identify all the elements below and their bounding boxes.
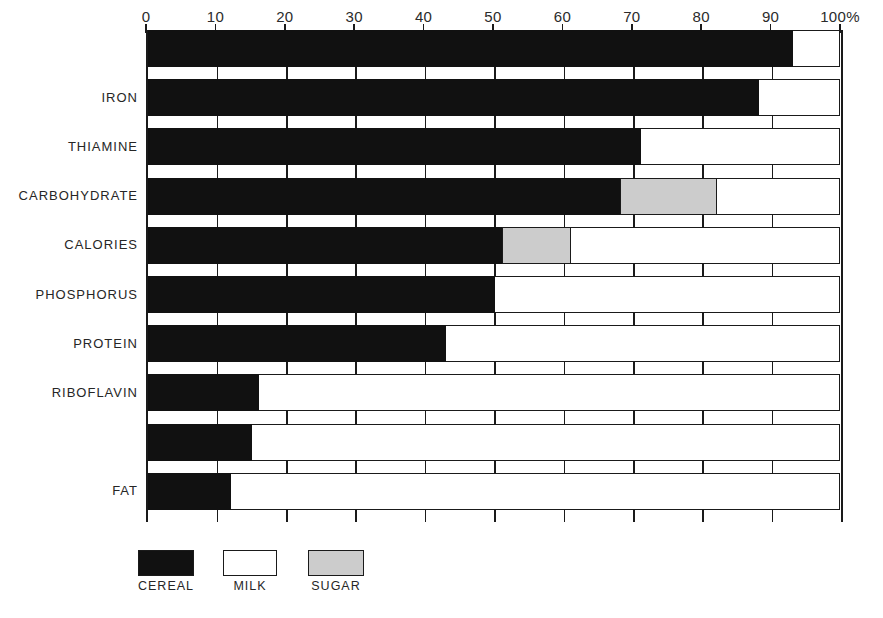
bar-segment-cereal bbox=[148, 325, 446, 362]
x-axis-tick-label: 0 bbox=[142, 8, 151, 25]
x-axis-tick-label: 40 bbox=[415, 8, 432, 25]
chart-legend: CEREALMILKSUGAR bbox=[138, 550, 438, 610]
legend-item-sugar: SUGAR bbox=[308, 550, 364, 593]
x-axis-tick-label: 100% bbox=[820, 8, 860, 25]
x-axis-tick-label: 20 bbox=[276, 8, 293, 25]
bar-row bbox=[148, 227, 840, 264]
legend-label: SUGAR bbox=[308, 579, 364, 593]
bar-segment-cereal bbox=[148, 276, 495, 313]
bar-segment-cereal bbox=[148, 227, 502, 264]
legend-label: CEREAL bbox=[138, 579, 194, 593]
x-axis-tick-label: 70 bbox=[623, 8, 640, 25]
bar-row bbox=[148, 128, 840, 165]
legend-label: MILK bbox=[223, 579, 277, 593]
category-label-iron: IRON bbox=[102, 91, 139, 104]
bar-row bbox=[148, 473, 840, 510]
bar-segment-cereal bbox=[148, 374, 259, 411]
bar-row bbox=[148, 276, 840, 313]
category-label-protein: PROTEIN bbox=[73, 337, 138, 350]
x-axis-tick-label: 80 bbox=[693, 8, 710, 25]
legend-swatch-cereal bbox=[138, 550, 194, 576]
bar-segment-cereal bbox=[148, 128, 641, 165]
category-label-phosphorus: PHOSPHORUS bbox=[36, 288, 138, 301]
category-axis-labels: IRONTHIAMINECARBOHYDRATECALORIESPHOSPHOR… bbox=[0, 30, 138, 522]
bar-row bbox=[148, 325, 840, 362]
x-axis-tick-label: 60 bbox=[554, 8, 571, 25]
legend-swatch-milk bbox=[223, 550, 277, 576]
bar-segment-cereal bbox=[148, 178, 620, 215]
category-label-thiamine: THIAMINE bbox=[68, 140, 138, 153]
x-axis-tick-label: 50 bbox=[484, 8, 501, 25]
category-label-fat: FAT bbox=[112, 484, 138, 497]
bar-segment-sugar bbox=[502, 227, 571, 264]
bar-segment-cereal bbox=[148, 30, 793, 67]
x-axis-tick-label: 30 bbox=[346, 8, 363, 25]
bar-segment-cereal bbox=[148, 473, 231, 510]
stacked-bar-chart: 0102030405060708090100% IRONTHIAMINECARB… bbox=[0, 0, 883, 618]
gridline bbox=[841, 30, 843, 522]
x-axis: 0102030405060708090100% bbox=[0, 0, 883, 30]
bar-segment-cereal bbox=[148, 424, 252, 461]
bar-row-frame-milk bbox=[148, 473, 840, 510]
bar-segment-sugar bbox=[620, 178, 717, 215]
category-label-riboflavin: RIBOFLAVIN bbox=[52, 386, 138, 399]
legend-swatch-sugar bbox=[308, 550, 364, 576]
bar-row bbox=[148, 178, 840, 215]
x-axis-tick-label: 90 bbox=[762, 8, 779, 25]
bar-segment-cereal bbox=[148, 79, 759, 116]
bar-row bbox=[148, 424, 840, 461]
bar-row bbox=[148, 374, 840, 411]
plot-area bbox=[146, 30, 840, 522]
category-label-calories: CALORIES bbox=[64, 238, 138, 251]
legend-item-milk: MILK bbox=[223, 550, 277, 593]
legend-item-cereal: CEREAL bbox=[138, 550, 194, 593]
bar-row bbox=[148, 30, 840, 67]
bar-row bbox=[148, 79, 840, 116]
category-label-carbohydrate: CARBOHYDRATE bbox=[19, 189, 138, 202]
x-axis-tick-label: 10 bbox=[207, 8, 224, 25]
